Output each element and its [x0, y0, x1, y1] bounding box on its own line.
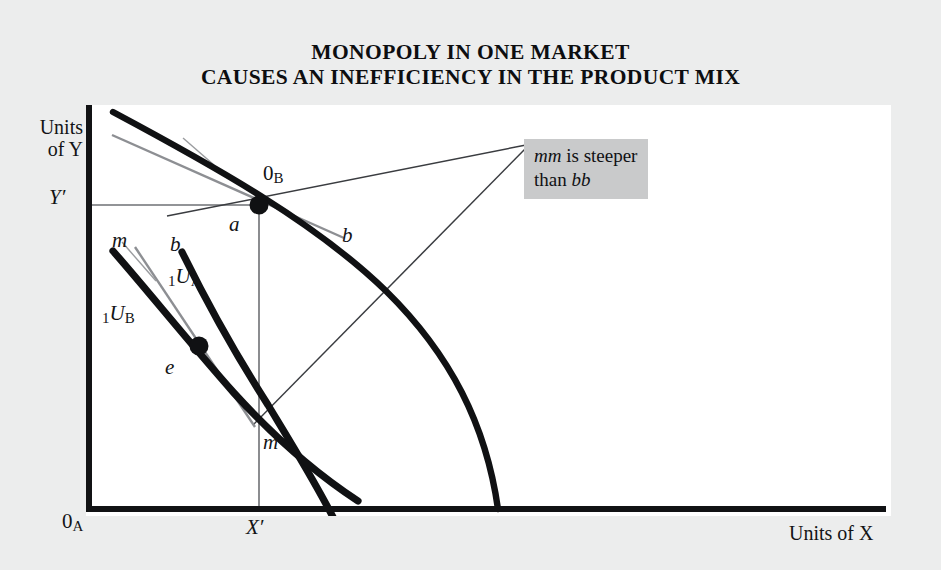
figure-root: MONOPOLY IN ONE MARKET CAUSES AN INEFFIC…	[0, 0, 941, 570]
y-axis-title-line1: Units	[40, 116, 83, 138]
title-line-2: CAUSES AN INEFFICIENCY IN THE PRODUCT MI…	[0, 65, 941, 90]
label-m-top: m	[112, 229, 127, 253]
label-0B-sub: B	[274, 170, 284, 186]
label-UA-presub: 1	[168, 273, 176, 289]
annotation-callout: mm is steeper than bb	[524, 139, 648, 199]
label-UA-base: U	[176, 264, 191, 288]
label-indifference-UB: 1UB	[102, 302, 135, 327]
annotation-rest: than	[534, 169, 571, 190]
label-b-top: b	[170, 233, 181, 257]
title-line-1: MONOPOLY IN ONE MARKET	[0, 40, 941, 65]
figure-title: MONOPOLY IN ONE MARKET CAUSES AN INEFFIC…	[0, 40, 941, 89]
label-UB-sub: B	[125, 310, 135, 326]
y-tick-label-Yprime: Y′	[49, 186, 65, 210]
annotation-mm: mm	[534, 145, 561, 166]
leader-line-to-mm	[253, 148, 526, 425]
label-m-bottom: m	[263, 431, 278, 455]
point-marker-0B	[250, 196, 269, 215]
label-UA-sub: A	[191, 273, 202, 289]
label-indifference-UA: 1UA	[168, 265, 202, 290]
leader-line-to-bb	[167, 145, 526, 216]
production-possibility-frontier	[113, 112, 498, 509]
y-tick-base: Y	[49, 185, 61, 209]
label-0B-base: 0	[263, 161, 274, 185]
y-tick-prime: ′	[61, 185, 65, 209]
label-b-right: b	[342, 224, 353, 248]
point-marker-e	[190, 337, 209, 356]
plot-panel: b b m m 0B a e 1UA 1UB mm is steeper tha…	[86, 105, 891, 516]
label-point-a: a	[229, 213, 240, 237]
y-axis-title: Units of Y	[39, 116, 83, 161]
origin-sub: A	[73, 518, 84, 534]
x-tick-label-Xprime: X′	[246, 516, 263, 540]
label-point-e: e	[165, 356, 174, 380]
chart-canvas	[86, 105, 891, 516]
label-UB-presub: 1	[102, 310, 110, 326]
x-axis-title: Units of X	[789, 522, 873, 544]
x-tick-prime: ′	[259, 515, 263, 539]
x-tick-base: X	[246, 515, 259, 539]
origin-label: 0A	[62, 510, 83, 535]
annotation-bb: bb	[571, 169, 590, 190]
label-point-0B: 0B	[263, 162, 284, 187]
bb-tangent-line	[112, 135, 344, 238]
label-UB-base: U	[110, 301, 125, 325]
origin-base: 0	[62, 509, 73, 533]
annotation-mid: is steeper	[561, 145, 637, 166]
indifference-curve-UB	[113, 251, 358, 501]
y-axis-title-line2: of Y	[48, 138, 83, 160]
